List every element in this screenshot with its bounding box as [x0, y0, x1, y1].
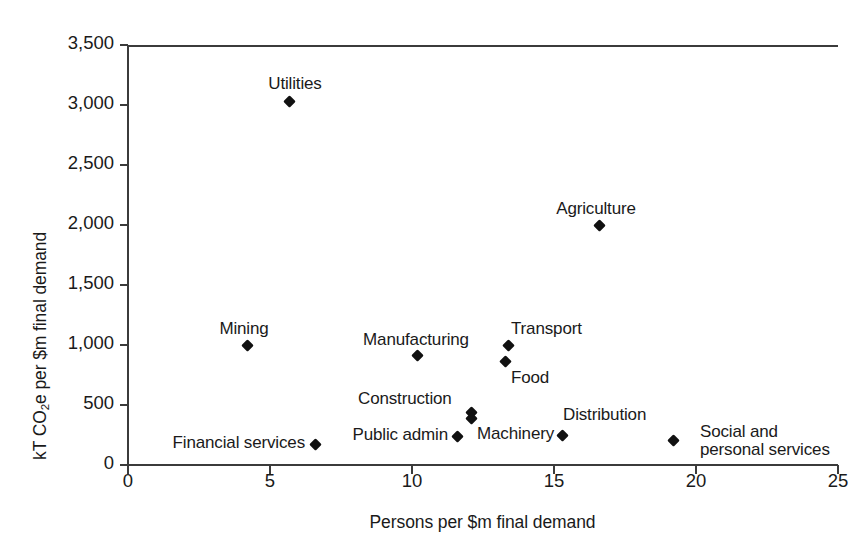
data-point-marker	[451, 430, 464, 443]
y-tick-mark	[120, 104, 128, 106]
y-tick-label: 3,000	[68, 92, 114, 114]
y-tick-label: 2,000	[68, 212, 114, 234]
point-label-social-services-l2: personal services	[700, 441, 856, 459]
y-tick-mark	[120, 344, 128, 346]
x-tick-label: 15	[524, 470, 584, 492]
point-label-food: Food	[511, 369, 571, 387]
x-tick-label: 5	[240, 470, 300, 492]
data-point-marker	[411, 349, 424, 362]
data-point-marker	[499, 355, 512, 368]
y-tick-mark	[120, 404, 128, 406]
y-axis-title: kT CO2e per $m final demand	[30, 40, 51, 460]
y-tick-label: 1,000	[68, 332, 114, 354]
scatter-chart: kT CO2e per $m final demand 3,5003,0002,…	[0, 0, 856, 560]
x-tick-label: 0	[98, 470, 158, 492]
plot-top-border	[127, 45, 838, 47]
x-tick-label: 10	[382, 470, 442, 492]
data-point-marker	[593, 219, 606, 232]
y-tick-label: 1,500	[68, 272, 114, 294]
data-point-marker	[241, 339, 254, 352]
point-label-agriculture: Agriculture	[538, 200, 654, 218]
point-label-machinery: Machinery	[477, 425, 577, 443]
x-tick-label: 20	[666, 470, 726, 492]
y-axis-line	[127, 45, 129, 466]
point-label-utilities: Utilities	[255, 75, 335, 93]
point-label-construction: Construction	[358, 390, 478, 408]
point-label-public-admin: Public admin	[340, 426, 448, 444]
point-label-social-services-l1: Social and	[700, 423, 810, 441]
point-label-financial-services: Financial services	[155, 434, 305, 452]
data-point-marker	[284, 95, 297, 108]
y-tick-label: 3,500	[68, 32, 114, 54]
y-tick-mark	[120, 164, 128, 166]
data-point-marker	[667, 434, 680, 447]
y-tick-label: 2,500	[68, 152, 114, 174]
data-point-marker	[309, 438, 322, 451]
y-tick-mark	[120, 44, 128, 46]
point-label-transport: Transport	[511, 320, 611, 338]
y-tick-label: 500	[83, 392, 114, 414]
point-label-mining: Mining	[204, 320, 284, 338]
x-tick-label: 25	[808, 470, 856, 492]
point-label-distribution: Distribution	[563, 406, 673, 424]
data-point-marker	[502, 339, 515, 352]
x-axis-line	[127, 464, 838, 466]
x-axis-title: Persons per $m final demand	[127, 512, 838, 533]
y-tick-mark	[120, 224, 128, 226]
y-tick-mark	[120, 284, 128, 286]
point-label-manufacturing: Manufacturing	[356, 331, 476, 349]
